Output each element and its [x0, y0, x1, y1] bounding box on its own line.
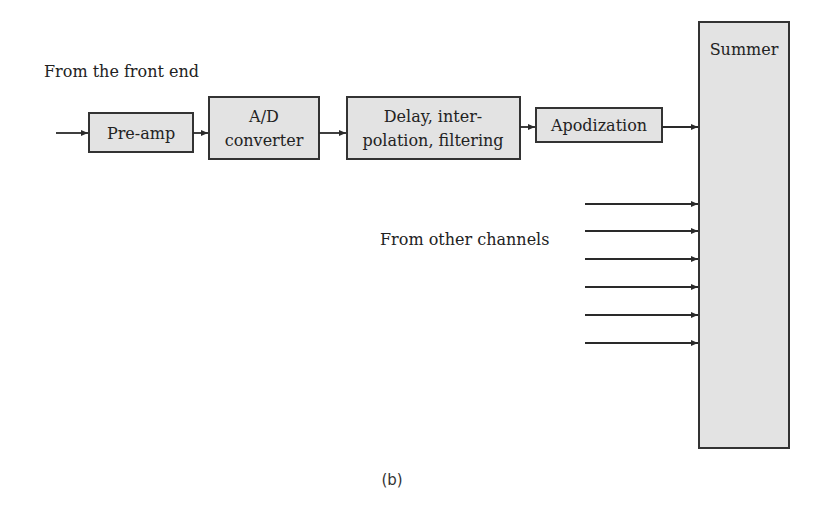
other-channels-label: From other channels — [380, 230, 549, 249]
other-channel-arrows — [585, 204, 698, 343]
block-adc-line2: converter — [225, 131, 304, 150]
block-preamp-label: Pre-amp — [107, 124, 175, 143]
block-adc: A/D converter — [209, 97, 319, 159]
input-label: From the front end — [44, 62, 199, 81]
beamformer-diagram: From the front end Pre-amp A/D converter… — [0, 0, 826, 507]
block-delay: Delay, inter- polation, filtering — [347, 97, 520, 159]
block-adc-line1: A/D — [248, 107, 279, 126]
block-apodization: Apodization — [536, 108, 662, 142]
block-summer-label: Summer — [710, 40, 779, 59]
block-delay-line1: Delay, inter- — [384, 107, 482, 126]
block-summer: Summer — [699, 22, 789, 448]
block-apodization-label: Apodization — [550, 116, 647, 135]
figure-caption: (b) — [381, 471, 402, 489]
block-preamp: Pre-amp — [89, 113, 193, 152]
block-delay-line2: polation, filtering — [362, 131, 503, 150]
